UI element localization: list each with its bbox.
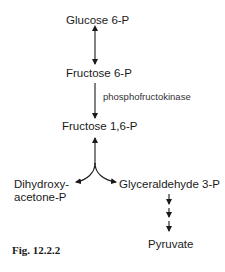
node-pyruvate: Pyruvate: [148, 238, 193, 251]
node-dihydroxyacetone-phosphate-line1: Dihydroxy-: [14, 178, 69, 191]
node-fructose-6-phosphate: Fructose 6-P: [66, 67, 132, 80]
aldolase-split-arrow: [76, 138, 116, 182]
node-glucose-6-phosphate: Glucose 6-P: [66, 14, 129, 27]
node-fructose-1-6-bisphosphate: Fructose 1,6-P: [62, 120, 137, 133]
enzyme-label-phosphofructokinase: phosphofructokinase: [103, 91, 191, 102]
node-glyceraldehyde-3-phosphate: Glyceraldehyde 3-P: [119, 178, 220, 191]
node-dihydroxyacetone-phosphate-line2: acetone-P: [14, 191, 66, 204]
pathway-arrows: [0, 0, 225, 272]
figure-caption: Fig. 12.2.2: [12, 244, 60, 256]
